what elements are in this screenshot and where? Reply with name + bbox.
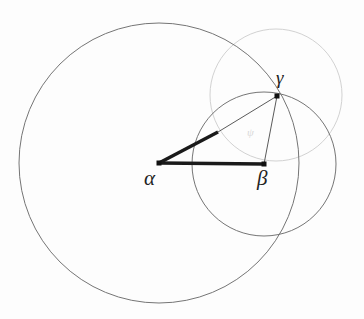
vertex-label-gamma: γ: [276, 68, 284, 87]
segment-alpha-beta: [159, 163, 264, 164]
vertex-label-beta: β: [257, 168, 267, 189]
geometry-diagram: [0, 0, 364, 319]
segment-alpha-mid: [159, 132, 218, 163]
figure-canvas: α β γ ψ: [0, 0, 364, 319]
segment-gamma-beta: [264, 96, 277, 164]
vertex-dot-alpha: [157, 161, 162, 166]
angle-label-psi: ψ: [247, 127, 254, 138]
vertex-label-alpha: α: [144, 168, 155, 189]
vertex-dot-gamma: [275, 94, 280, 99]
